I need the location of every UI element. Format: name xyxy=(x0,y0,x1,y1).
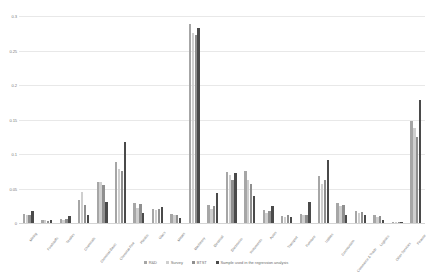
y-axis-tick-label: 0.2 xyxy=(12,83,17,88)
x-axis-tick-label: Machinery xyxy=(194,236,207,251)
bar xyxy=(308,202,310,223)
bar xyxy=(382,220,384,223)
bar xyxy=(419,100,421,223)
x-axis-tick-label: Glass xyxy=(158,231,167,240)
bar xyxy=(31,211,33,223)
y-axis-tick-label: 0.3 xyxy=(12,14,17,19)
bars-layer xyxy=(19,16,425,223)
legend-item[interactable]: R&D xyxy=(144,260,157,265)
bar xyxy=(105,202,107,223)
bar-group xyxy=(314,16,332,223)
bar xyxy=(216,193,218,223)
bar xyxy=(87,215,89,223)
x-axis-tick-label: Construction xyxy=(341,239,356,256)
bar xyxy=(253,196,255,223)
x-axis-tick-label: Finance xyxy=(416,234,427,246)
legend-swatch-icon xyxy=(144,261,147,264)
x-axis-tick-label: Utilities xyxy=(324,233,334,244)
bar-group xyxy=(74,16,92,223)
legend-label: R&D xyxy=(149,260,157,265)
bar xyxy=(50,220,52,223)
bar-group xyxy=(277,16,295,223)
bar-group xyxy=(167,16,185,223)
x-axis-tick-label: Autos xyxy=(269,231,278,240)
bar xyxy=(400,222,402,223)
bar-group xyxy=(185,16,203,223)
bar xyxy=(345,215,347,223)
x-axis-tick-label: Chemicals xyxy=(83,237,96,252)
bar xyxy=(364,215,366,223)
bar xyxy=(68,216,70,223)
bar xyxy=(234,173,236,223)
x-axis-labels: MiningFoodstuffsTextilesChemicalsChemica… xyxy=(19,224,425,258)
legend-label: BTST xyxy=(197,260,207,265)
bar-group xyxy=(296,16,314,223)
bar-group xyxy=(388,16,406,223)
y-axis-tick-label: 0.1 xyxy=(12,152,17,157)
bar xyxy=(271,206,273,223)
bar-chart: 0.30.250.20.150.10.050 MiningFoodstuffsT… xyxy=(0,0,432,276)
legend-item[interactable]: Survey xyxy=(166,260,183,265)
x-axis-tick-label: Transport xyxy=(286,235,298,249)
bar-group xyxy=(333,16,351,223)
x-axis-tick-label: Logistics xyxy=(379,234,390,247)
bar xyxy=(327,160,329,223)
legend-swatch-icon xyxy=(166,261,169,264)
bar-group xyxy=(93,16,111,223)
legend-item[interactable]: BTST xyxy=(192,260,207,265)
x-axis-tick-label: Other Services xyxy=(395,242,412,262)
bar xyxy=(161,207,163,223)
bar-group xyxy=(37,16,55,223)
bar-group xyxy=(19,16,37,223)
bar-group xyxy=(240,16,258,223)
y-axis-tick-label: 0.05 xyxy=(9,186,17,191)
legend-swatch-icon xyxy=(192,261,195,264)
bar-group xyxy=(111,16,129,223)
legend-label: Sample used in the regression analysis xyxy=(220,260,288,265)
bar-group xyxy=(204,16,222,223)
x-axis-tick-label: Metals xyxy=(177,232,186,242)
legend-label: Survey xyxy=(171,260,183,265)
x-axis-tick-label: Instruments xyxy=(249,238,263,254)
x-axis-tick-label: Electronics xyxy=(230,237,243,253)
bar-group xyxy=(351,16,369,223)
bar-group xyxy=(130,16,148,223)
bar-group xyxy=(148,16,166,223)
x-axis-tick-label: Furniture xyxy=(305,235,317,248)
x-axis-tick-label: Plastics xyxy=(139,233,149,245)
bar xyxy=(124,142,126,223)
x-axis-tick-label: Chemical-Fine xyxy=(118,241,135,261)
bar-group xyxy=(56,16,74,223)
bar-group xyxy=(370,16,388,223)
bar xyxy=(290,217,292,223)
bar xyxy=(142,213,144,223)
x-axis-tick-label: Textiles xyxy=(66,233,76,244)
bar xyxy=(179,218,181,223)
y-axis-tick-label: 0.15 xyxy=(9,117,17,122)
x-axis-tick-label: Mining xyxy=(29,232,38,242)
bar-group xyxy=(222,16,240,223)
chart-legend: R&DSurveyBTSTSample used in the regressi… xyxy=(0,260,432,265)
x-axis-tick-label: Electrical xyxy=(213,235,225,248)
y-axis-tick-label: 0.25 xyxy=(9,48,17,53)
legend-swatch-icon xyxy=(216,261,219,264)
bar-group xyxy=(259,16,277,223)
bar-group xyxy=(407,16,425,223)
y-axis-tick-label: 0 xyxy=(15,221,17,226)
plot-area xyxy=(19,16,425,223)
legend-item[interactable]: Sample used in the regression analysis xyxy=(216,260,288,265)
bar xyxy=(197,28,199,223)
y-axis: 0.30.250.20.150.10.050 xyxy=(0,16,19,223)
x-axis-tick-label: Foodstuffs xyxy=(46,236,59,251)
